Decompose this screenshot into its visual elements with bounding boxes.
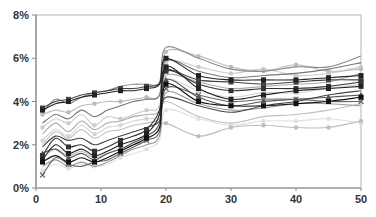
data-point-marker (359, 73, 364, 78)
data-point-marker (359, 67, 363, 71)
data-point-marker (294, 119, 298, 123)
data-point-marker (144, 86, 149, 91)
data-point-marker (66, 144, 71, 149)
data-point-marker (164, 82, 169, 87)
data-point-marker (92, 123, 96, 127)
data-point-marker (261, 77, 266, 82)
data-point-marker (118, 99, 122, 103)
data-point-marker (144, 108, 148, 112)
data-point-marker (40, 112, 44, 116)
plot-area (36, 15, 364, 188)
data-point-marker (261, 123, 265, 127)
data-point-marker (294, 77, 299, 82)
data-point-marker (118, 123, 122, 127)
data-point-marker (118, 88, 123, 93)
data-point-marker (144, 117, 148, 121)
y-axis-ticks: 0%2%4%6%8% (13, 9, 36, 194)
data-point-marker (326, 117, 330, 121)
data-point-marker (196, 73, 201, 78)
data-point-marker (229, 125, 233, 129)
x-tick-label: 30 (225, 193, 237, 205)
data-point-marker (92, 149, 97, 154)
data-point-marker (326, 86, 331, 91)
x-axis-ticks: 01020304050 (33, 188, 367, 205)
data-point-marker (144, 127, 149, 132)
data-point-marker (40, 125, 44, 129)
data-point-marker (164, 108, 168, 112)
data-point-marker (92, 153, 97, 158)
series-s18 (40, 119, 363, 160)
data-point-marker (40, 138, 44, 142)
data-point-marker (229, 71, 233, 75)
data-point-marker (40, 173, 45, 178)
data-point-marker (164, 121, 168, 125)
data-point-marker (196, 77, 201, 82)
data-point-marker (66, 160, 71, 165)
data-point-marker (40, 108, 45, 113)
y-tick-label: 2% (13, 139, 29, 151)
x-tick-label: 40 (290, 193, 302, 205)
data-point-marker (294, 88, 299, 93)
data-point-marker (196, 65, 200, 69)
data-point-marker (66, 121, 70, 125)
series-s15 (43, 91, 362, 147)
x-tick-label: 10 (95, 193, 107, 205)
data-point-marker (196, 82, 201, 87)
series-line (43, 91, 362, 147)
data-point-marker (229, 97, 234, 102)
data-point-marker (294, 101, 299, 106)
data-point-marker (359, 80, 364, 85)
data-point-marker (66, 166, 70, 170)
x-tick-label: 0 (33, 193, 39, 205)
data-point-marker (229, 77, 234, 82)
data-point-marker (196, 86, 201, 91)
data-point-marker (40, 160, 45, 165)
series-s12 (40, 86, 364, 177)
data-point-marker (261, 93, 266, 98)
y-tick-label: 8% (13, 9, 29, 21)
data-point-marker (66, 99, 71, 104)
data-point-marker (144, 136, 149, 141)
data-point-marker (261, 86, 266, 91)
data-point-marker (92, 93, 97, 98)
data-point-marker (359, 84, 364, 89)
data-point-marker (294, 125, 298, 129)
data-point-marker (164, 64, 169, 69)
data-point-marker (196, 134, 200, 138)
x-tick-label: 20 (160, 193, 172, 205)
data-point-marker (229, 88, 234, 93)
x-tick-label: 50 (355, 193, 367, 205)
data-point-marker (261, 119, 265, 123)
data-point-marker (196, 99, 201, 104)
data-point-marker (261, 82, 266, 87)
data-point-marker (66, 151, 71, 156)
series-line (43, 79, 362, 140)
data-point-marker (144, 147, 148, 151)
data-point-marker (294, 63, 298, 67)
data-point-marker (326, 75, 331, 80)
data-point-marker (118, 138, 123, 143)
data-point-marker (92, 101, 96, 105)
data-point-marker (118, 142, 123, 147)
line-chart: 0%2%4%6%8% 01020304050 (0, 0, 376, 217)
data-point-marker (66, 110, 70, 114)
y-tick-label: 4% (13, 96, 29, 108)
data-point-marker (229, 103, 234, 108)
data-point-marker (326, 125, 330, 129)
y-tick-label: 0% (13, 182, 29, 194)
data-point-marker (359, 119, 363, 123)
series-layer (40, 47, 365, 178)
data-point-marker (359, 95, 364, 100)
y-tick-label: 6% (13, 52, 29, 64)
data-point-marker (92, 160, 97, 165)
data-point-marker (261, 103, 266, 108)
data-point-marker (144, 131, 149, 136)
data-point-marker (164, 56, 169, 61)
data-point-marker (326, 99, 331, 104)
data-point-marker (118, 149, 123, 154)
axes: 0%2%4%6%8% 01020304050 (13, 9, 367, 205)
data-point-marker (92, 132, 96, 136)
